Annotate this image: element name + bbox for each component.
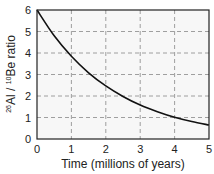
y-tick-label: 0: [25, 133, 31, 145]
x-axis-label: Time (millions of years): [61, 157, 185, 171]
x-tick-label: 1: [68, 143, 74, 155]
x-tick-label: 3: [137, 143, 143, 155]
x-tick-labels: 012345: [34, 143, 212, 155]
y-axis-label: 26Al / 10Be ratio: [4, 35, 18, 113]
y-tick-label: 1: [25, 112, 31, 124]
y-tick-label: 4: [25, 47, 31, 59]
decay-chart: 012345 0123456 Time (millions of years) …: [0, 0, 214, 174]
y-tick-label: 6: [25, 4, 31, 16]
y-tick-label: 2: [25, 90, 31, 102]
x-tick-label: 4: [172, 143, 178, 155]
x-tick-label: 0: [34, 143, 40, 155]
y-tick-label: 3: [25, 69, 31, 81]
x-tick-label: 5: [206, 143, 212, 155]
y-tick-label: 5: [25, 26, 31, 38]
y-tick-labels: 0123456: [25, 4, 31, 145]
x-tick-label: 2: [103, 143, 109, 155]
